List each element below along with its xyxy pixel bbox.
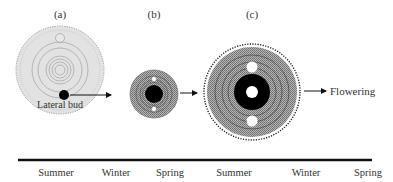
season-2: Winter: [102, 167, 131, 178]
season-4: Summer: [216, 167, 252, 178]
season-1: Summer: [38, 167, 74, 178]
stage-a-label: (a): [54, 8, 67, 21]
stage-c-label: (c): [246, 8, 259, 21]
stage-c-bud: [204, 44, 300, 140]
season-6: Spring: [354, 167, 383, 178]
stage-b-bud: [130, 70, 178, 118]
flowering-label: Flowering: [330, 85, 376, 97]
stage-b-label: (b): [148, 8, 161, 21]
lateral-bud-label: Lateral bud: [37, 99, 83, 110]
season-5: Winter: [292, 167, 321, 178]
season-3: Spring: [156, 167, 185, 178]
bud-development-diagram: (a) (b) (c) Lateral bud: [0, 0, 393, 182]
